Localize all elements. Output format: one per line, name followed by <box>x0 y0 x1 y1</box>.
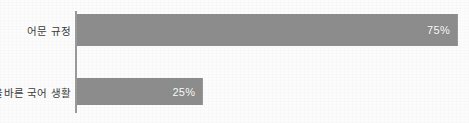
bar-value-label-1: 25% <box>172 86 195 98</box>
bar-value-label-0: 75% <box>427 24 450 36</box>
bar-track-1: 25% <box>76 78 458 105</box>
bar-fill-0[interactable] <box>76 14 458 46</box>
bar-chart: 어문 규정 75% 올바른 국어 생활 25% <box>0 0 469 123</box>
bar-row: 올바른 국어 생활 25% <box>0 78 469 105</box>
category-label-0: 어문 규정 <box>27 23 71 38</box>
category-label-1: 올바른 국어 생활 <box>0 84 71 99</box>
bar-track-0: 75% <box>76 14 458 46</box>
bar-row: 어문 규정 75% <box>0 14 469 46</box>
category-axis-line <box>75 11 77 113</box>
